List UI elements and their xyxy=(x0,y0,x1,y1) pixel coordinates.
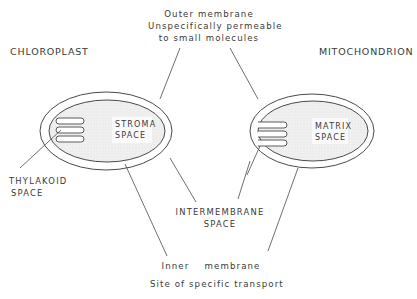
outer-membrane-leader-right xyxy=(230,48,258,99)
outer-membrane-title: Outer membrane xyxy=(148,8,270,20)
outer-membrane-desc-2: to small molecules xyxy=(148,32,270,44)
inner-membrane-leader-left xyxy=(125,164,167,256)
mitochondrion-title: MITOCHONDRION xyxy=(319,46,413,57)
intermembrane-space-label: INTERMEMBRANE SPACE xyxy=(170,206,270,230)
outer-membrane-desc-1: Unspecifically permeable xyxy=(148,20,270,32)
thylakoid-stack xyxy=(56,118,84,142)
mitochondrion-shape xyxy=(250,94,374,168)
membrane-diagram xyxy=(0,0,417,299)
cristae xyxy=(258,122,287,146)
inner-membrane-label: Inner membrane Site of specific transpor… xyxy=(150,257,272,293)
thylakoid-space-label: THYLAKOID SPACE xyxy=(9,175,67,199)
chloroplast-title: CHLOROPLAST xyxy=(10,46,89,57)
inner-membrane-leader-right xyxy=(268,168,298,251)
stroma-line2: SPACE xyxy=(115,130,156,141)
thylakoid-line1: THYLAKOID xyxy=(9,175,67,187)
inner-membrane-desc: Site of specific transport xyxy=(150,275,272,293)
matrix-line1: MATRIX xyxy=(315,121,352,132)
stroma-line1: STROMA xyxy=(115,119,156,130)
inner-membrane-title: Inner membrane xyxy=(150,257,272,275)
stroma-space-label: STROMA SPACE xyxy=(115,119,156,141)
intermembrane-leader-left xyxy=(170,158,196,202)
matrix-line2: SPACE xyxy=(315,132,352,143)
intermembrane-line2: SPACE xyxy=(170,218,270,230)
thylakoid-line2: SPACE xyxy=(9,187,67,199)
intermembrane-line1: INTERMEMBRANE xyxy=(170,206,270,218)
matrix-space-label: MATRIX SPACE xyxy=(315,121,352,143)
outer-membrane-leader-left xyxy=(160,48,180,99)
outer-membrane-label: Outer membrane Unspecifically permeable … xyxy=(148,8,270,44)
intermembrane-leader-right xyxy=(238,161,250,199)
mito-inner-leader-left xyxy=(247,146,260,175)
